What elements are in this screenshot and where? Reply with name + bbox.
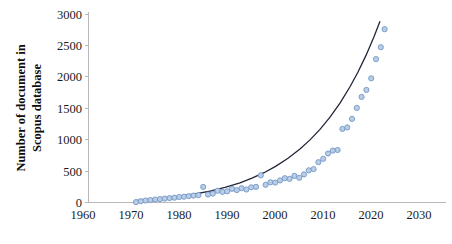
x-tick-label: 1990 xyxy=(215,208,240,222)
data-point xyxy=(229,186,234,191)
data-point xyxy=(210,191,215,196)
y-axis-title-line2: Scopus database xyxy=(30,64,44,152)
x-tick-label: 2000 xyxy=(263,208,288,222)
data-point xyxy=(258,173,263,178)
data-point xyxy=(196,193,201,198)
x-tick-label: 2020 xyxy=(359,208,384,222)
y-axis-title-line1: Number of document in xyxy=(14,44,28,171)
data-point xyxy=(172,195,177,200)
x-tick-label: 1960 xyxy=(71,208,96,222)
data-point xyxy=(282,176,287,181)
y-tick-label: 1500 xyxy=(57,102,82,116)
data-point xyxy=(201,184,206,189)
data-point xyxy=(220,189,225,194)
data-point xyxy=(301,172,306,177)
data-point xyxy=(345,125,350,130)
y-tick-label: 500 xyxy=(63,165,82,179)
data-point xyxy=(325,151,330,156)
data-point xyxy=(311,167,316,172)
data-point xyxy=(354,105,359,110)
data-point xyxy=(330,148,335,153)
data-point xyxy=(373,57,378,62)
data-point xyxy=(138,199,143,204)
data-point xyxy=(335,147,340,152)
x-tick-label: 2030 xyxy=(407,208,432,222)
scatter-chart: 0 500 1000 1500 2000 2500 3000 1960 1970… xyxy=(0,0,452,244)
data-point xyxy=(378,45,383,50)
data-point xyxy=(287,176,292,181)
x-tick-label: 2010 xyxy=(311,208,336,222)
data-point xyxy=(215,188,220,193)
x-tick-label: 1980 xyxy=(167,208,192,222)
data-point xyxy=(263,182,268,187)
data-point xyxy=(321,156,326,161)
data-point xyxy=(253,184,258,189)
data-point xyxy=(133,200,138,205)
y-tick-label: 1000 xyxy=(57,133,82,147)
data-point xyxy=(306,168,311,173)
chart-container: 0 500 1000 1500 2000 2500 3000 1960 1970… xyxy=(0,0,452,244)
data-point xyxy=(359,94,364,99)
data-point xyxy=(364,87,369,92)
data-point xyxy=(225,189,230,194)
data-point xyxy=(297,175,302,180)
data-point xyxy=(382,27,387,32)
data-point xyxy=(205,192,210,197)
data-point xyxy=(349,116,354,121)
data-point xyxy=(316,160,321,165)
data-point xyxy=(369,76,374,81)
y-tick-label: 2500 xyxy=(57,39,82,53)
data-point xyxy=(239,186,244,191)
y-tick-label: 3000 xyxy=(57,8,82,22)
data-point xyxy=(181,194,186,199)
y-tick-label: 2000 xyxy=(57,70,82,84)
x-tick-label: 1970 xyxy=(119,208,144,222)
